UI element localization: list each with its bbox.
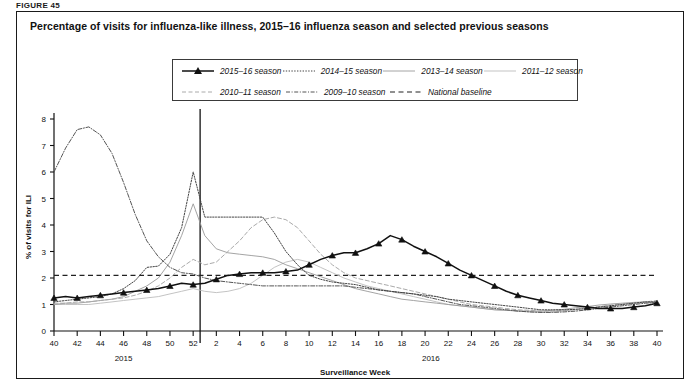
x-tick-label: 34: [583, 339, 592, 348]
year-group-label: 2016: [422, 354, 440, 363]
legend-label: 2014–15 season: [321, 66, 382, 76]
x-tick-label: 32: [560, 339, 569, 348]
legend-item: 2015–16 season: [181, 66, 282, 76]
x-tick-label: 52: [189, 339, 198, 348]
x-tick-label: 8: [284, 339, 289, 348]
x-tick-label: 46: [119, 339, 128, 348]
figure-root: FIGURE 45 Percentage of visits for influ…: [0, 0, 700, 389]
series-line-2014: [54, 172, 657, 310]
x-axis-label: Surveillance Week: [320, 368, 390, 377]
legend-label: 2015–16 season: [220, 66, 281, 76]
legend-key-fine-dotted-icon: [282, 66, 316, 76]
x-tick-label: 40: [653, 339, 662, 348]
x-tick-label: 10: [305, 339, 314, 348]
x-tick-label: 40: [50, 339, 59, 348]
x-tick-label: 28: [513, 339, 522, 348]
y-tick-label: 3: [42, 248, 47, 257]
year-group-label: 2015: [115, 354, 133, 363]
legend-label: 2010–11 season: [220, 87, 281, 97]
x-tick-label: 18: [397, 339, 406, 348]
x-tick-label: 2: [214, 339, 219, 348]
x-tick-label: 48: [142, 339, 151, 348]
series-marker-triangle: [422, 249, 428, 254]
x-tick-label: 36: [606, 339, 615, 348]
y-tick-label: 1: [42, 301, 47, 310]
legend-label: 2013–14 season: [421, 66, 482, 76]
x-tick-label: 50: [166, 339, 175, 348]
legend-item: 2011–12 season: [483, 66, 577, 76]
x-tick-label: 38: [629, 339, 638, 348]
y-axis-label: % of visits for ILI: [24, 195, 33, 259]
x-tick-label: 22: [444, 339, 453, 348]
y-tick-label: 5: [42, 195, 47, 204]
legend-label: 2011–12 season: [522, 66, 583, 76]
legend-label: National baseline: [428, 87, 492, 97]
x-tick-label: 42: [73, 339, 82, 348]
x-tick-label: 16: [374, 339, 383, 348]
legend-row: 2015–16 season2014–15 season2013–14 seas…: [173, 60, 577, 81]
legend-row: 2010–11 season2009–10 seasonNational bas…: [173, 81, 577, 102]
chart-legend: 2015–16 season2014–15 season2013–14 seas…: [172, 59, 578, 101]
legend-item: National baseline: [389, 87, 493, 97]
legend-key-dashed-light-icon: [181, 87, 215, 97]
legend-item: 2014–15 season: [282, 66, 383, 76]
legend-item: 2010–11 season: [181, 87, 285, 97]
x-tick-label: 44: [96, 339, 105, 348]
legend-key-dashed-dark-icon: [389, 87, 423, 97]
legend-key-solid-light-icon: [483, 66, 517, 76]
x-tick-label: 14: [351, 339, 360, 348]
x-tick-label: 6: [261, 339, 266, 348]
legend-key-solid-triangle-icon: [181, 66, 215, 76]
y-tick-label: 8: [42, 115, 47, 124]
y-tick-label: 2: [42, 274, 47, 283]
y-tick-label: 4: [42, 221, 47, 230]
y-tick-label: 7: [42, 142, 47, 151]
series-line-2013: [54, 204, 657, 311]
legend-key-dash-dot-icon: [285, 87, 319, 97]
y-tick-label: 6: [42, 168, 47, 177]
x-tick-label: 26: [490, 339, 499, 348]
series-marker-triangle: [491, 283, 497, 288]
y-tick-label: 0: [42, 327, 47, 336]
series-line-2010: [54, 217, 657, 311]
x-tick-label: 20: [421, 339, 430, 348]
legend-item: 2009–10 season: [285, 87, 389, 97]
legend-label: 2009–10 season: [324, 87, 385, 97]
legend-key-solid-thin-icon: [382, 66, 416, 76]
x-tick-label: 30: [537, 339, 546, 348]
x-tick-label: 4: [237, 339, 242, 348]
legend-item: 2013–14 season: [382, 66, 483, 76]
x-tick-label: 12: [328, 339, 337, 348]
x-tick-label: 24: [467, 339, 476, 348]
series-line-2015: [54, 236, 657, 309]
